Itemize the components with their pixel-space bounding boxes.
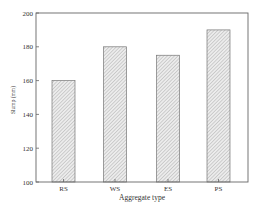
y-tick-label: 100 [23,179,34,187]
x-axis-title: Aggregate type [119,193,166,202]
y-tick-label: 140 [23,111,34,119]
y-axis: 100120140160180200 [23,10,40,187]
y-tick-label: 180 [23,43,34,51]
y-tick-label: 200 [23,10,34,18]
y-axis-title: Slump (mm) [10,86,17,114]
bar-chart: 100120140160180200 RSWSESPS Aggregate ty… [0,0,261,207]
x-tick-label-ps: PS [215,185,223,193]
y-tick-label: 160 [23,77,34,85]
bar-es [157,55,180,182]
x-axis: RSWSESPS [59,179,222,193]
bar-rs [52,81,75,182]
y-tick-label: 120 [23,145,34,153]
x-tick-label-ws: WS [110,185,121,193]
x-tick-label-es: ES [164,185,172,193]
bar-ws [104,47,127,182]
x-tick-label-rs: RS [59,185,68,193]
bar-ps [207,30,230,182]
bars-group [52,30,230,182]
